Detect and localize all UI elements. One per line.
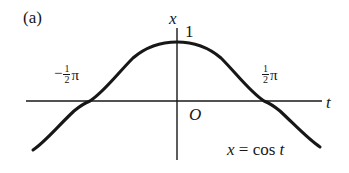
fraction-denominator: 2: [262, 74, 269, 85]
equals-sign: =: [239, 140, 249, 159]
equation-argument: t: [280, 140, 285, 159]
fraction-numerator: 1: [63, 64, 70, 74]
pi-icon: π: [269, 68, 278, 83]
x-axis-label: x: [169, 10, 177, 27]
panel-label: (a): [23, 9, 42, 26]
t-axis-label: t: [326, 94, 331, 111]
fraction-one-half: 1 2: [262, 64, 269, 85]
tick-label-positive-half-pi: 1 2 π: [262, 64, 278, 85]
fraction-numerator: 1: [262, 64, 269, 74]
figure-panel: (a) x t 1 O − 1 2 π 1 2 π x = cos t: [0, 0, 349, 173]
equation-lhs: x: [227, 140, 235, 159]
cosine-function-name: cos: [253, 140, 276, 159]
fraction-one-half: 1 2: [63, 64, 70, 85]
tick-label-negative-half-pi: − 1 2 π: [54, 64, 79, 85]
equation-label: x = cos t: [227, 141, 284, 158]
minus-sign: −: [54, 66, 63, 81]
fraction-denominator: 2: [63, 74, 70, 85]
amplitude-tick-label: 1: [185, 23, 194, 40]
origin-label: O: [189, 106, 201, 123]
pi-icon: π: [70, 68, 79, 83]
